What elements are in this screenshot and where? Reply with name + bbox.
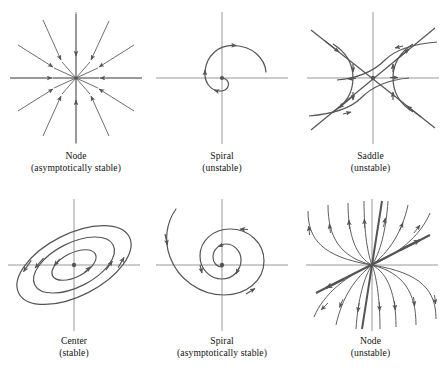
spiral-stable-plot (152, 195, 292, 335)
panel-saddle-unstable (303, 8, 441, 148)
critical-point-dot (220, 76, 224, 80)
critical-point-dot (72, 263, 76, 267)
caption-center-stable: Center (stable) (4, 335, 144, 358)
caption-node-unstable: Node (unstable) (302, 335, 439, 358)
saddle-plot (303, 8, 441, 148)
critical-point-dot (74, 76, 77, 79)
caption-line2: (asymptotically stable) (6, 162, 146, 174)
caption-line1: Center (4, 335, 144, 347)
caption-line2: (unstable) (152, 162, 292, 174)
caption-line2: (asymptotically stable) (147, 347, 297, 359)
critical-point-dot (370, 263, 374, 267)
node-stable-plot (6, 8, 146, 148)
spiral-trajectory (167, 209, 264, 295)
caption-line1: Saddle (303, 150, 438, 162)
critical-point-dot (371, 76, 375, 80)
caption-spiral-unstable: Spiral (unstable) (152, 150, 292, 173)
panel-center-stable (4, 195, 144, 335)
caption-line2: (unstable) (303, 162, 438, 174)
caption-spiral-asymptotically-stable: Spiral (asymptotically stable) (147, 335, 297, 358)
panel-node-asymptotically-stable (6, 8, 146, 148)
caption-line2: (stable) (4, 347, 144, 359)
spiral-trajectory (205, 45, 266, 91)
spiral-unstable-plot (152, 8, 292, 148)
center-plot (4, 195, 144, 335)
node-unstable-plot (302, 195, 441, 335)
panel-spiral-asymptotically-stable (152, 195, 292, 335)
caption-line1: Spiral (152, 150, 292, 162)
critical-point-dot (220, 263, 224, 267)
caption-line1: Node (6, 150, 146, 162)
caption-line2: (unstable) (302, 347, 439, 359)
caption-line1: Node (302, 335, 439, 347)
caption-saddle-unstable: Saddle (unstable) (303, 150, 438, 173)
panel-spiral-unstable (152, 8, 292, 148)
caption-node-asymptotically-stable: Node (asymptotically stable) (6, 150, 146, 173)
caption-line1: Spiral (147, 335, 297, 347)
spiral-arrowheads (205, 45, 237, 91)
panel-node-unstable (302, 195, 441, 335)
phase-portrait-figure: Node (asymptotically stable) (0, 0, 441, 371)
